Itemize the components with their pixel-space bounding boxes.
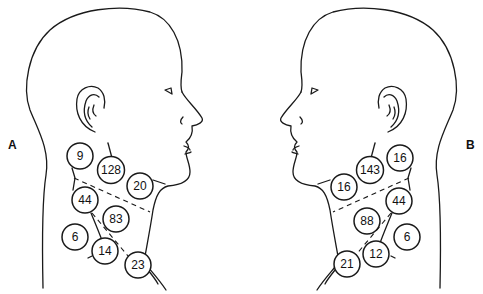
svg-text:21: 21 [340,257,354,271]
lymph-node-circle: 83 [103,206,129,232]
lymph-node-diagram: 9 128 20 44 83 6 14 23 16 143 16 44 88 6… [0,0,483,294]
lymph-node-circle: 12 [363,241,389,267]
svg-text:88: 88 [360,214,374,228]
lymph-node-circle: 44 [386,188,412,214]
svg-text:83: 83 [109,212,123,226]
svg-text:128: 128 [101,163,121,177]
lymph-node-circle: 6 [394,224,420,250]
node-group-a: 9 128 20 44 83 6 14 23 [62,143,153,278]
svg-text:12: 12 [369,247,383,261]
lymph-node-circle: 16 [387,145,413,171]
lymph-node-circle: 88 [354,208,380,234]
lymph-node-circle: 6 [62,224,88,250]
node-group-b: 16 143 16 44 88 6 12 21 [331,145,420,277]
lymph-node-circle: 16 [331,174,357,200]
svg-text:9: 9 [77,149,84,163]
lymph-node-circle: 128 [98,157,125,184]
svg-text:14: 14 [98,244,112,258]
svg-text:6: 6 [72,230,79,244]
lymph-node-circle: 44 [72,187,98,213]
svg-text:16: 16 [393,151,407,165]
svg-text:143: 143 [360,163,380,177]
lymph-node-circle: 20 [127,173,153,199]
lymph-node-circle: 14 [92,238,118,264]
svg-text:6: 6 [404,230,411,244]
svg-text:44: 44 [78,193,92,207]
svg-text:23: 23 [131,258,145,272]
svg-text:20: 20 [133,179,147,193]
svg-text:44: 44 [392,194,406,208]
lymph-node-circle: 9 [67,143,93,169]
lymph-node-circle: 23 [125,252,151,278]
svg-text:16: 16 [337,180,351,194]
lymph-node-circle: 21 [334,251,360,277]
lymph-node-circle: 143 [357,157,384,184]
